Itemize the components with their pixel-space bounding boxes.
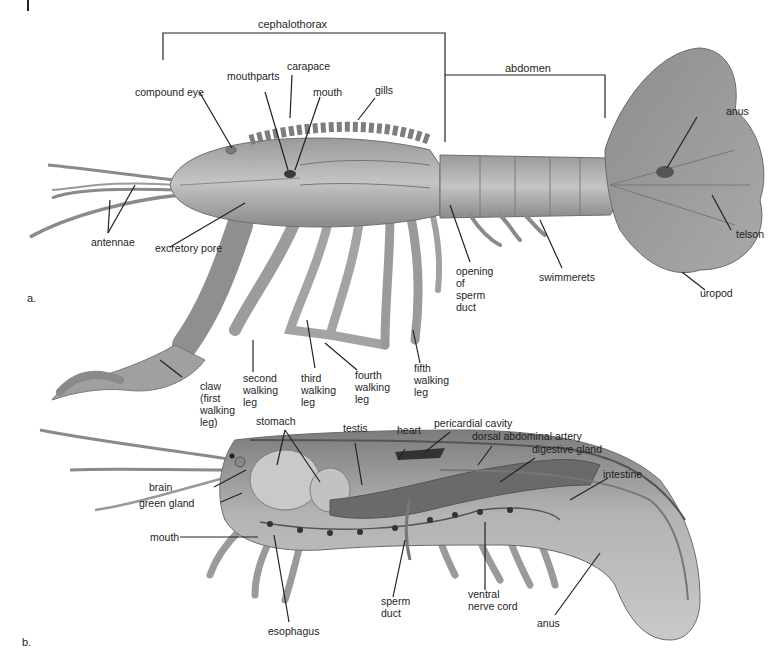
label-stomach: stomach (256, 415, 296, 427)
label-abdomen: abdomen (505, 62, 551, 74)
crayfish-anatomy-figure: cephalothorax abdomen compound eye mouth… (0, 0, 779, 668)
panel-b-crayfish (40, 430, 700, 640)
label-compound-eye: compound eye (135, 86, 204, 98)
label-green-gland: green gland (139, 497, 194, 509)
label-uropod: uropod (700, 287, 733, 299)
label-mouth-a: mouth (313, 86, 342, 98)
label-intestine: intestine (603, 468, 642, 480)
label-carapace: carapace (287, 60, 330, 72)
label-third-walking-leg: third walking leg (301, 372, 336, 408)
label-excretory-pore: excretory pore (155, 242, 222, 254)
label-anus-a: anus (726, 105, 749, 117)
label-anus-b: anus (537, 617, 560, 629)
label-fourth-walking-leg: fourth walking leg (355, 369, 390, 405)
label-second-walking-leg: second walking leg (243, 372, 278, 408)
label-opening-of-sperm-duct: opening of sperm duct (456, 265, 493, 313)
label-testis: testis (343, 422, 368, 434)
panel-label-b: b. (22, 636, 31, 648)
label-swimmerets: swimmerets (539, 271, 595, 283)
label-mouthparts: mouthparts (227, 70, 280, 82)
label-ventral-nerve-cord: ventral nerve cord (468, 588, 518, 612)
label-dorsal-abdominal-artery: dorsal abdominal artery (472, 430, 582, 442)
label-esophagus: esophagus (268, 625, 319, 637)
crayfish-illustration (0, 0, 779, 668)
label-gills: gills (375, 84, 393, 96)
label-pericardial-cavity: pericardial cavity (434, 417, 512, 429)
label-cephalothorax: cephalothorax (258, 18, 327, 30)
panel-label-a: a. (27, 292, 36, 304)
label-sperm-duct: sperm duct (381, 595, 410, 619)
label-fifth-walking-leg: fifth walking leg (414, 362, 449, 398)
label-antennae: antennae (91, 236, 135, 248)
label-telson: telson (736, 228, 764, 240)
label-heart: heart (397, 424, 421, 436)
label-brain: brain (149, 481, 172, 493)
label-claw-first-walking-leg: claw (first walking leg) (200, 380, 235, 428)
label-mouth-b: mouth (150, 531, 179, 543)
panel-a-crayfish (30, 48, 764, 400)
label-digestive-gland: digestive gland (532, 443, 602, 455)
